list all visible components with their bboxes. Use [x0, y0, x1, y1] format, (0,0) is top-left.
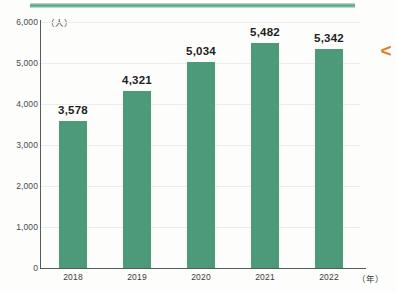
- y-axis-tick-label: 2,000: [2, 181, 38, 191]
- x-axis-tick-label: 2018: [48, 272, 98, 282]
- y-axis-tick-label: 1,000: [2, 222, 38, 232]
- x-axis-unit-label: （年）: [357, 272, 384, 284]
- x-axis-tick-label: 2021: [240, 272, 290, 282]
- x-axis-tick-label: 2019: [112, 272, 162, 282]
- bar-2020[interactable]: [187, 62, 215, 268]
- bar-2021[interactable]: [251, 43, 279, 268]
- bar-2022[interactable]: [315, 49, 343, 268]
- bar-2018[interactable]: [59, 121, 87, 268]
- y-axis-tick-label: 6,000: [2, 17, 38, 27]
- bar-value-label: 4,321: [107, 74, 167, 86]
- y-axis-tick-label: 3,000: [2, 140, 38, 150]
- plot-area: 3,5784,3215,0345,4825,342: [41, 22, 361, 268]
- y-axis-tick-labels: 01,0002,0003,0004,0005,0006,000: [0, 0, 38, 293]
- y-axis-tick-label: 4,000: [2, 99, 38, 109]
- chart-page: < （人） （年） 01,0002,0003,0004,0005,0006,00…: [0, 0, 396, 293]
- y-axis-tick-label: 0: [2, 263, 38, 273]
- x-axis-tick-label: 2022: [304, 272, 354, 282]
- gridline: [41, 22, 360, 23]
- y-axis-tick-label: 5,000: [2, 58, 38, 68]
- bar-value-label: 5,034: [171, 45, 231, 57]
- bar-2019[interactable]: [123, 91, 151, 268]
- x-axis-tick-label: 2020: [176, 272, 226, 282]
- x-axis-line: [41, 268, 366, 269]
- orange-chevron-marker: <: [378, 41, 394, 61]
- top-green-band: [30, 3, 355, 8]
- bar-value-label: 5,482: [235, 26, 295, 38]
- bar-value-label: 3,578: [43, 104, 103, 116]
- bar-value-label: 5,342: [299, 32, 359, 44]
